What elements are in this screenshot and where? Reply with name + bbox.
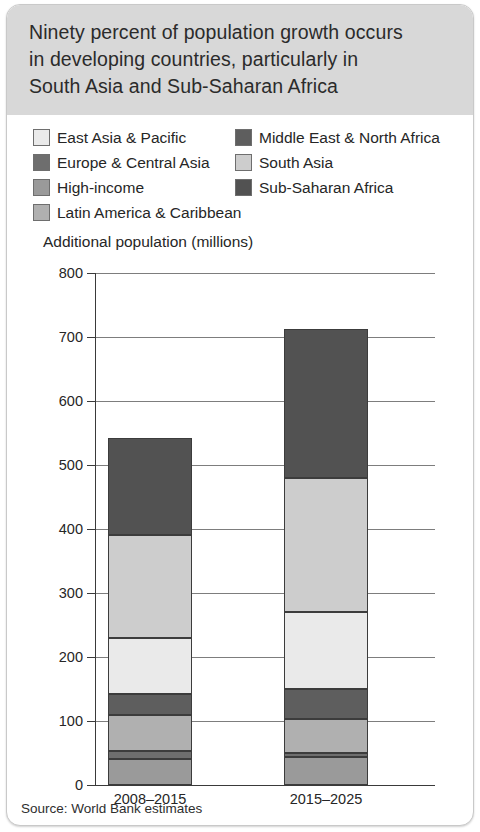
y-axis-tick-labels: 0100200300400500600700800: [7, 273, 83, 785]
bar-2[interactable]: [284, 255, 368, 785]
y-axis-line: [95, 273, 96, 786]
legend-item-high-income[interactable]: High-income: [33, 175, 248, 199]
bar-segment[interactable]: [284, 719, 368, 753]
bar-segment[interactable]: [108, 535, 192, 638]
legend-item-middle-east-north-africa[interactable]: Middle East & North Africa: [235, 125, 474, 149]
bar-segment[interactable]: [284, 612, 368, 689]
legend-item-europe-central-asia[interactable]: Europe & Central Asia: [33, 150, 248, 174]
legend-swatch-icon: [235, 179, 252, 196]
legend-swatch-icon: [33, 179, 50, 196]
bar-segment[interactable]: [108, 438, 192, 535]
bar-segment[interactable]: [108, 759, 192, 785]
title-band: Ninety percent of population growth occu…: [7, 5, 473, 115]
legend-column-right: Middle East & North Africa South Asia Su…: [235, 125, 474, 200]
title-line-1: Ninety percent of population growth occu…: [29, 19, 451, 46]
legend-item-east-asia-pacific[interactable]: East Asia & Pacific: [33, 125, 248, 149]
y-axis-tick: [87, 337, 95, 338]
bar-segment[interactable]: [284, 689, 368, 719]
legend-swatch-icon: [33, 154, 50, 171]
gridline: [95, 785, 435, 786]
y-axis-tick-label: 800: [21, 265, 83, 281]
x-axis-tick-label: 2015–2025: [246, 791, 406, 807]
legend-label: Sub-Saharan Africa: [259, 179, 393, 196]
chart-plot: 0100200300400500600700800 2008–20152015–…: [7, 255, 474, 800]
y-axis-tick: [87, 401, 95, 402]
bar-segment[interactable]: [108, 715, 192, 751]
legend-swatch-icon: [33, 129, 50, 146]
bar-segment[interactable]: [284, 329, 368, 477]
title-line-2: in developing countries, particularly in: [29, 46, 451, 73]
chart-legend: East Asia & Pacific Europe & Central Asi…: [7, 119, 473, 223]
legend-label: Latin America & Caribbean: [57, 204, 241, 221]
y-axis-tick: [87, 721, 95, 722]
legend-swatch-icon: [235, 154, 252, 171]
y-axis-title: Additional population (millions): [43, 233, 253, 251]
page-title: Ninety percent of population growth occu…: [29, 19, 451, 100]
y-axis-tick-label: 600: [21, 393, 83, 409]
bar-segment[interactable]: [108, 694, 192, 714]
bar-segment[interactable]: [108, 751, 192, 759]
y-axis-tick: [87, 465, 95, 466]
legend-label: Europe & Central Asia: [57, 154, 210, 171]
y-axis-tick-label: 500: [21, 457, 83, 473]
y-axis-tick-label: 400: [21, 521, 83, 537]
y-axis-tick-label: 300: [21, 585, 83, 601]
y-axis-tick: [87, 529, 95, 530]
legend-item-south-asia[interactable]: South Asia: [235, 150, 474, 174]
y-axis-tick: [87, 273, 95, 274]
bar-segment[interactable]: [108, 638, 192, 694]
legend-label: Middle East & North Africa: [259, 129, 440, 146]
y-axis-tick: [87, 785, 95, 786]
legend-label: South Asia: [259, 154, 333, 171]
bar-segment[interactable]: [284, 757, 368, 785]
y-axis-tick-label: 200: [21, 649, 83, 665]
bar-1[interactable]: [108, 255, 192, 785]
chart-card: Ninety percent of population growth occu…: [6, 4, 474, 826]
legend-label: High-income: [57, 179, 144, 196]
y-axis-tick-label: 700: [21, 329, 83, 345]
source-note: Source: World Bank estimates: [21, 801, 202, 816]
y-axis-tick: [87, 593, 95, 594]
y-axis-tick: [87, 657, 95, 658]
legend-swatch-icon: [235, 129, 252, 146]
legend-item-sub-saharan-africa[interactable]: Sub-Saharan Africa: [235, 175, 474, 199]
legend-column-left: East Asia & Pacific Europe & Central Asi…: [33, 125, 248, 225]
title-line-3: South Asia and Sub-Saharan Africa: [29, 73, 451, 100]
bar-segment[interactable]: [284, 478, 368, 612]
legend-label: East Asia & Pacific: [57, 129, 186, 146]
legend-swatch-icon: [33, 204, 50, 221]
legend-item-latin-america-caribbean[interactable]: Latin America & Caribbean: [33, 200, 248, 224]
bar-segment[interactable]: [284, 753, 368, 757]
y-axis-tick-label: 100: [21, 713, 83, 729]
